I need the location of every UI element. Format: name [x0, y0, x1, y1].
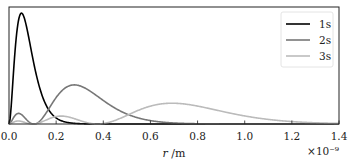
- x-tick-label: 0.2: [48, 130, 65, 142]
- x-tick-label: 1.4: [331, 130, 348, 142]
- x-tick-label: 1.2: [284, 130, 301, 142]
- x-tick-label: 1.0: [236, 130, 253, 142]
- legend-label-3s: 3s: [319, 50, 331, 62]
- legend: 1s2s3s: [281, 12, 333, 67]
- x-scale-note: ×10⁻⁹: [307, 145, 339, 157]
- x-tick-label: 0.0: [1, 130, 18, 142]
- x-tick-label: 0.4: [95, 130, 112, 142]
- x-tick-label: 0.8: [189, 130, 206, 142]
- legend-label-2s: 2s: [319, 34, 331, 46]
- curve-3s: [9, 103, 339, 124]
- legend-label-1s: 1s: [319, 18, 331, 30]
- curve-2s: [9, 85, 339, 124]
- radial-distribution-chart: 0.00.20.40.60.81.01.21.4 r /m ×10⁻⁹ 1s2s…: [0, 0, 349, 162]
- x-axis-label: r /m: [163, 147, 186, 160]
- x-tick-label: 0.6: [142, 130, 159, 142]
